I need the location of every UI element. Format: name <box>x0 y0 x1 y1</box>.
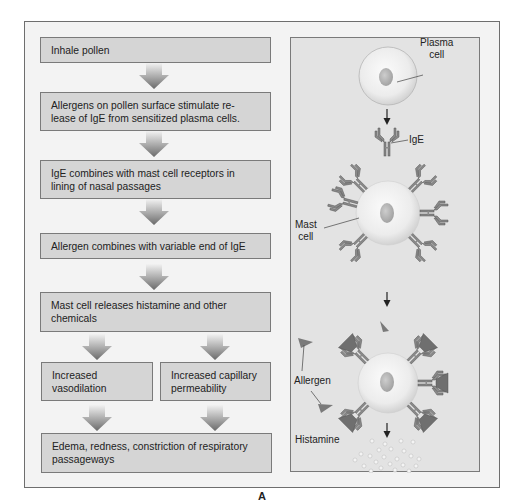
arrow-down-icon <box>139 63 169 91</box>
arrow-down-icon <box>139 131 169 159</box>
ige-label: IgE <box>409 134 424 146</box>
histamine-particles-icon <box>353 439 421 473</box>
allergen-label: Allergen <box>294 375 331 387</box>
arrow-down-icon <box>200 332 230 362</box>
plasma-cell-icon <box>359 47 423 105</box>
figure-label: A <box>258 490 266 502</box>
ige-antibody-icon <box>375 128 408 156</box>
arrow-down-icon <box>200 401 230 433</box>
arrow-down-icon <box>384 292 391 307</box>
arrow-down-icon <box>82 401 112 433</box>
step-text: Inhale pollen <box>51 44 109 57</box>
step-text: IgE combines with mast cell receptors in… <box>51 167 235 193</box>
step-edema-redness-constriction: Edema, redness, constriction of respirat… <box>41 433 272 473</box>
mast-cell-icon <box>324 162 448 264</box>
arrow-down-icon <box>139 199 169 227</box>
step-increased-capillary-permeability: Increased capillary permeability <box>160 362 271 401</box>
step-increased-vasodilation: Increased vasodilation <box>41 362 153 401</box>
step-mast-cell-releases-histamine: Mast cell releases histamine and other c… <box>40 292 271 332</box>
step-text: Allergens on pollen surface stimulate re… <box>51 99 240 125</box>
histamine-label: Histamine <box>295 434 339 446</box>
arrow-down-icon <box>384 109 391 125</box>
step-ige-combines-mast-cell: IgE combines with mast cell receptors in… <box>40 160 271 199</box>
arrow-down-icon <box>139 259 169 292</box>
step-text: Increased vasodilation <box>52 369 106 395</box>
mast-cell-with-allergen-icon <box>337 332 448 434</box>
step-inhale-pollen: Inhale pollen <box>40 37 271 63</box>
step-text: Mast cell releases histamine and other c… <box>51 299 227 325</box>
step-text: Allergen combines with variable end of I… <box>51 240 246 253</box>
plasma-cell-label: Plasma cell <box>420 37 453 61</box>
allergen-icon <box>298 338 313 348</box>
allergen-icon <box>318 404 333 413</box>
arrow-down-icon <box>82 332 112 362</box>
step-allergens-stimulate-ige: Allergens on pollen surface stimulate re… <box>40 92 271 131</box>
arrow-down-icon <box>384 423 391 438</box>
allergen-icon <box>380 321 389 332</box>
illustration-panel: Plasma cell IgE Mast cell Allergen Hista… <box>290 37 480 472</box>
mast-cell-label: Mast cell <box>295 219 317 243</box>
step-text: Edema, redness, constriction of respirat… <box>52 440 248 466</box>
step-allergen-combines-ige: Allergen combines with variable end of I… <box>40 233 271 259</box>
step-text: Increased capillary permeability <box>171 369 257 395</box>
